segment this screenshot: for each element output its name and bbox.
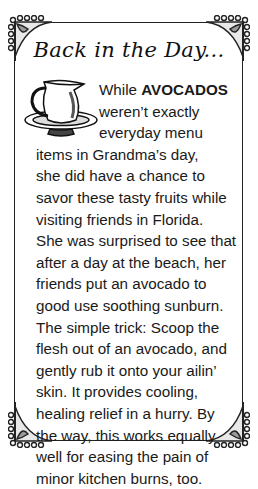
article-line: visiting friends in Florida. [36,209,246,231]
lead-word: While [99,81,137,98]
article-line: minor kitchen burns, too. [36,468,246,489]
section-title: Back in the Day... [0,38,258,62]
article-line: flesh out of an avocado, and [36,338,246,360]
article-line: well for easing the pain of [36,446,246,468]
article-line: the way, this works equally [36,425,246,447]
article-line: everyday menu [36,122,246,144]
article-line: healing relief in a hurry. By [36,403,246,425]
article-line: friends put an avocado to [36,273,246,295]
article-line: good use soothing sunburn. [36,295,246,317]
article-line: gently rub it onto your ailin’ [36,360,246,382]
article-line: she did have a chance to [36,165,246,187]
article-line: She was surprised to see that [36,230,246,252]
article-line: savor these tasty fruits while [36,187,246,209]
article-line: weren’t exactly [36,101,246,123]
article-body: While AVOCADOS weren’t exactly everyday … [36,79,246,489]
article-line: skin. It provides cooling, [36,381,246,403]
article-line: The simple trick: Scoop the [36,317,246,339]
highlight-keyword: AVOCADOS [141,81,228,98]
article-line: While AVOCADOS [36,79,246,101]
article-line: after a day at the beach, her [36,252,246,274]
article-line: items in Grandma’s day, [36,144,246,166]
